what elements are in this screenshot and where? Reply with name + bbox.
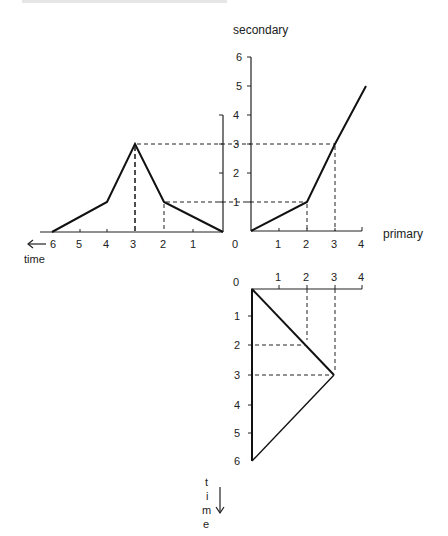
tick-label: 6 xyxy=(50,238,56,250)
tick-label: 6 xyxy=(236,51,242,63)
tick-label: 5 xyxy=(76,238,82,250)
tick-label: 3 xyxy=(130,238,136,250)
tick-label: 4 xyxy=(234,399,240,411)
primary-axis-label: primary xyxy=(383,227,423,241)
tick-label: 1 xyxy=(234,310,240,322)
diagram-canvas: 6 5 4 3 2 1 0 4 3 2 1 time secondary xyxy=(0,0,448,536)
secondary-axis-label: secondary xyxy=(233,23,288,37)
time-label-letter: e xyxy=(203,518,209,530)
tick-label: 1 xyxy=(275,238,281,250)
tick-label: 5 xyxy=(234,427,240,439)
tick-label: 0 xyxy=(232,238,238,250)
time-secondary-curve xyxy=(52,144,223,232)
tick-label: 4 xyxy=(103,238,109,250)
primary-time-curve-return xyxy=(252,375,334,461)
tick-label: 2 xyxy=(234,339,240,351)
tick-label: 2 xyxy=(233,167,239,179)
tick-label: 2 xyxy=(303,271,309,283)
time-secondary-chart: 6 5 4 3 2 1 0 4 3 2 1 time xyxy=(24,109,239,265)
tick-label: 3 xyxy=(234,369,240,381)
primary-secondary-chart: secondary 6 5 1 2 3 4 primary xyxy=(233,23,423,250)
primary-time-chart: 0 1 2 3 4 1 2 3 4 5 6 t i m e xyxy=(202,271,364,530)
primary-secondary-curve xyxy=(251,86,366,231)
arrow-left-icon xyxy=(28,240,46,248)
tick-label: 3 xyxy=(331,238,337,250)
tick-label: 4 xyxy=(233,109,239,121)
tick-label: 3 xyxy=(331,271,337,283)
tick-label: 2 xyxy=(160,238,166,250)
primary-time-curve xyxy=(252,289,334,375)
tick-label: 4 xyxy=(358,238,364,250)
tick-label: 1 xyxy=(190,238,196,250)
tick-label: 5 xyxy=(236,80,242,92)
time-label-letter: m xyxy=(202,504,211,516)
tick-label: 4 xyxy=(358,271,364,283)
tick-label: 1 xyxy=(275,271,281,283)
time-label-letter: i xyxy=(206,490,208,502)
time-label-letter: t xyxy=(205,476,208,488)
tick-label: 2 xyxy=(303,238,309,250)
tick-label: 6 xyxy=(234,455,240,467)
tick-label: 0 xyxy=(233,276,239,288)
arrow-down-icon xyxy=(216,487,224,513)
time-axis-label: time xyxy=(24,253,45,265)
